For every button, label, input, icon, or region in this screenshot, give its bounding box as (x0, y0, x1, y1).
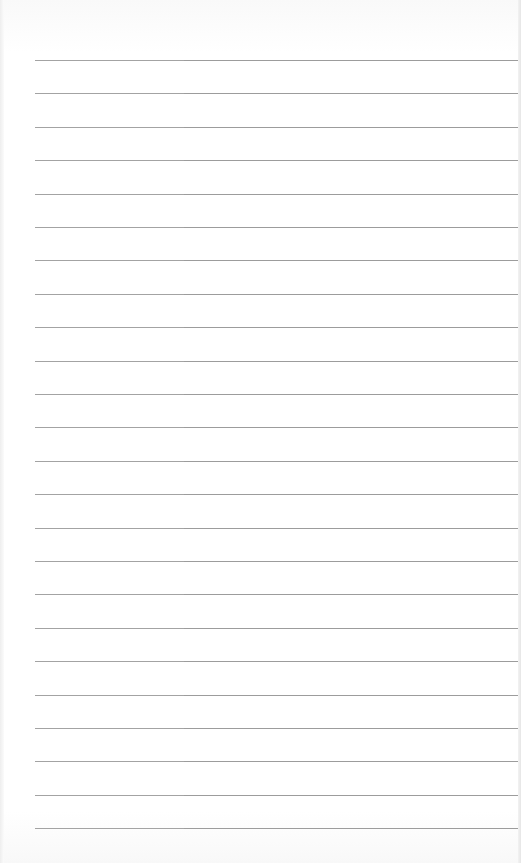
ruled-line-left-segment (35, 628, 184, 629)
ruled-line-left-segment (35, 494, 184, 495)
ruled-line (35, 60, 518, 61)
ruled-line (35, 160, 518, 161)
ruled-line (35, 194, 518, 195)
ruled-line-left-segment (35, 661, 184, 662)
ruled-line-left-segment (35, 294, 184, 295)
ruled-line-left-segment (35, 561, 184, 562)
ruled-line (35, 394, 518, 395)
ruled-line-left-segment (35, 93, 184, 94)
ruled-line-left-segment (35, 361, 184, 362)
paper-left-edge (0, 0, 4, 863)
ruled-line (35, 795, 518, 796)
ruled-line (35, 461, 518, 462)
ruled-line-left-segment (35, 695, 184, 696)
ruled-line-left-segment (35, 427, 184, 428)
ruled-line (35, 494, 518, 495)
ruled-line (35, 695, 518, 696)
ruled-line (35, 260, 518, 261)
ruled-line (35, 761, 518, 762)
ruled-line-left-segment (35, 528, 184, 529)
ruled-line-left-segment (35, 60, 184, 61)
ruled-line (35, 628, 518, 629)
ruled-line (35, 528, 518, 529)
ruled-line-left-segment (35, 761, 184, 762)
ruled-line (35, 728, 518, 729)
ruled-line (35, 127, 518, 128)
ruled-line (35, 361, 518, 362)
ruled-line (35, 594, 518, 595)
ruled-line-left-segment (35, 327, 184, 328)
ruled-line-left-segment (35, 728, 184, 729)
ruled-line (35, 828, 518, 829)
ruled-line (35, 561, 518, 562)
ruled-line-left-segment (35, 828, 184, 829)
ruled-line (35, 93, 518, 94)
ruled-line (35, 427, 518, 428)
ruled-line-left-segment (35, 194, 184, 195)
ruled-line-left-segment (35, 795, 184, 796)
ruled-line (35, 327, 518, 328)
ruled-line-left-segment (35, 260, 184, 261)
ruled-line-left-segment (35, 160, 184, 161)
ruled-line-left-segment (35, 127, 184, 128)
ruled-line-left-segment (35, 394, 184, 395)
ruled-line (35, 294, 518, 295)
ruled-line (35, 661, 518, 662)
ruled-line-left-segment (35, 461, 184, 462)
ruled-line-left-segment (35, 227, 184, 228)
lined-paper-sheet (0, 0, 521, 863)
ruled-line (35, 227, 518, 228)
ruled-line-left-segment (35, 594, 184, 595)
